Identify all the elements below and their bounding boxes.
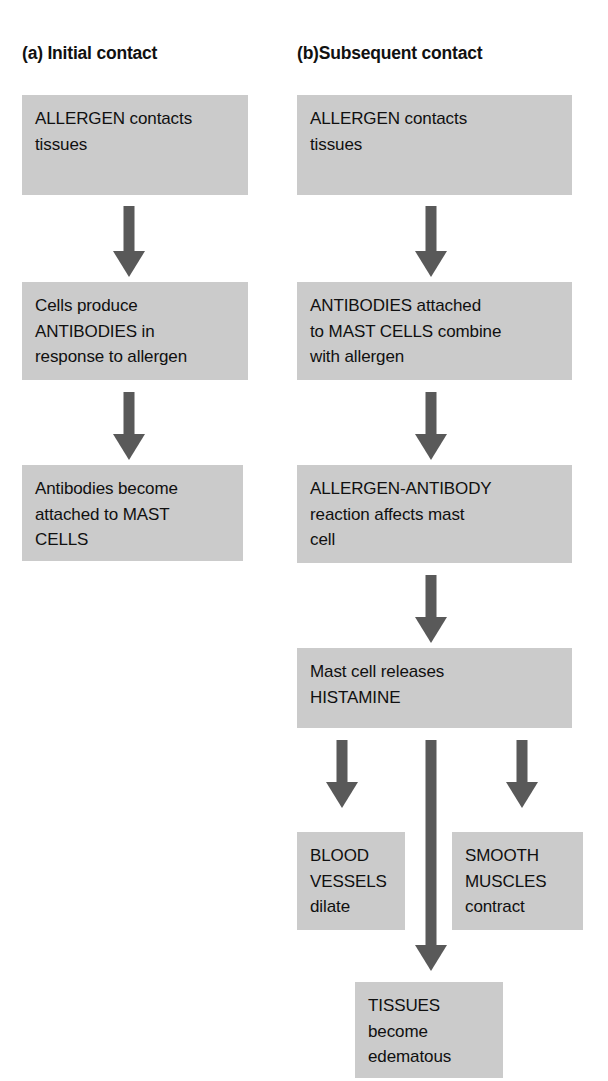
box-line: MUSCLES [465,869,583,895]
box-b-allergen-antibody-reaction: ALLERGEN-ANTIBODY reaction affects mast … [297,465,572,563]
box-line: response to allergen [35,344,248,370]
arrow-b-1 [414,206,447,277]
box-line: become [368,1019,503,1045]
arrow-stem [123,206,134,254]
arrow-b-branch-center [414,740,447,972]
figure-canvas: (a) Initial contact ALLERGEN contacts ti… [0,0,608,1081]
arrow-stem [516,740,527,785]
arrow-b-branch-right [505,740,538,808]
box-line: tissues [35,132,248,158]
box-line: HISTAMINE [310,685,572,711]
box-line: dilate [310,894,405,920]
box-b-antibodies-combine-allergen: ANTIBODIES attached to MAST CELLS combin… [297,282,572,380]
box-line: SMOOTH [465,843,583,869]
arrow-head [113,434,145,460]
arrow-b-3 [414,575,447,643]
box-line: reaction affects mast [310,502,572,528]
box-line: Mast cell releases [310,659,572,685]
arrow-head [326,782,358,808]
box-line: to MAST CELLS combine [310,319,572,345]
box-b-smooth-muscles-contract: SMOOTH MUSCLES contract [452,832,583,930]
box-line: cell [310,527,572,553]
arrow-a-1 [112,206,145,277]
box-a-allergen-contacts-tissues: ALLERGEN contacts tissues [22,95,248,195]
box-line: Cells produce [35,293,248,319]
box-line: Antibodies become [35,476,243,502]
arrow-head [415,251,447,277]
arrow-b-branch-left [325,740,358,808]
box-line: with allergen [310,344,572,370]
arrow-stem [336,740,347,785]
panel-a-heading: (a) Initial contact [22,43,157,64]
box-line: ANTIBODIES in [35,319,248,345]
arrow-stem [123,392,134,437]
arrow-a-2 [112,392,145,460]
box-line: ALLERGEN-ANTIBODY [310,476,572,502]
panel-b-heading: (b)Subsequent contact [297,43,482,64]
box-line: tissues [310,132,572,158]
box-line: TISSUES [368,993,503,1019]
arrow-head [415,434,447,460]
box-line: BLOOD [310,843,405,869]
arrow-stem [425,575,436,620]
box-b-mast-cell-releases-histamine: Mast cell releases HISTAMINE [297,648,572,728]
box-line: edematous [368,1044,503,1070]
arrow-head [415,617,447,643]
box-a-cells-produce-antibodies: Cells produce ANTIBODIES in response to … [22,282,248,380]
arrow-b-2 [414,392,447,460]
arrow-stem [425,392,436,437]
box-line: CELLS [35,527,243,553]
box-line: attached to MAST [35,502,243,528]
box-line: VESSELS [310,869,405,895]
arrow-head [415,945,447,971]
arrow-stem [425,206,436,254]
arrow-head [506,782,538,808]
box-b-allergen-contacts-tissues: ALLERGEN contacts tissues [297,95,572,195]
box-b-blood-vessels-dilate: BLOOD VESSELS dilate [297,832,405,930]
box-line: ALLERGEN contacts [310,106,572,132]
box-a-antibodies-attached-mast-cells: Antibodies become attached to MAST CELLS [22,465,243,561]
box-b-tissues-become-edematous: TISSUES become edematous [355,982,503,1078]
cropped-caption-remnant [0,0,608,10]
box-line: contract [465,894,583,920]
arrow-head [113,251,145,277]
box-line: ANTIBODIES attached [310,293,572,319]
arrow-stem [425,740,436,950]
box-line: ALLERGEN contacts [35,106,248,132]
